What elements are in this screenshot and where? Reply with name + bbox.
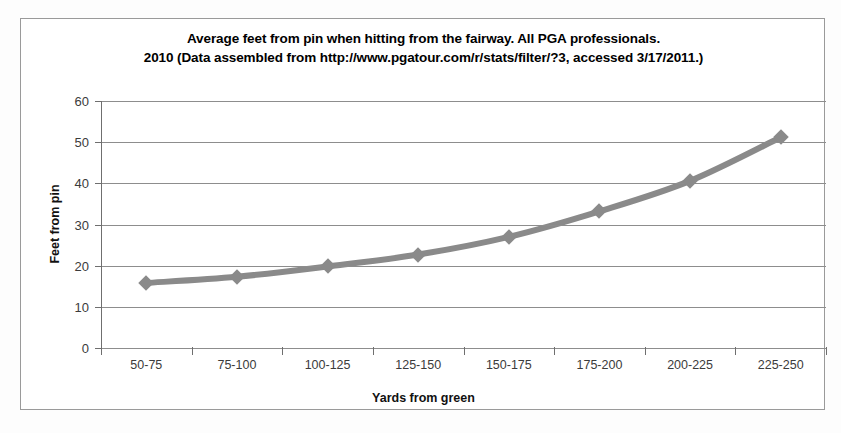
y-axis-tick-label: 40 bbox=[75, 176, 89, 191]
y-axis-title: Feet from pin bbox=[48, 184, 62, 263]
x-axis-tick bbox=[826, 347, 827, 355]
chart-figure: Average feet from pin when hitting from … bbox=[20, 18, 825, 410]
scanned-page-background: Average feet from pin when hitting from … bbox=[0, 0, 841, 433]
y-axis-tick bbox=[95, 307, 102, 308]
x-axis-tick bbox=[645, 347, 646, 355]
x-axis-tick-label: 175-200 bbox=[577, 358, 623, 372]
y-axis-tick bbox=[95, 225, 102, 226]
chart-title-line-2: 2010 (Data assembled from http://www.pga… bbox=[21, 48, 826, 67]
x-axis-tick-label: 50-75 bbox=[130, 358, 162, 372]
y-gridline bbox=[101, 142, 826, 143]
chart-title-line-1: Average feet from pin when hitting from … bbox=[21, 29, 826, 48]
y-axis-tick-label: 30 bbox=[75, 217, 89, 232]
y-gridline bbox=[101, 183, 826, 184]
y-axis-tick bbox=[95, 101, 102, 102]
x-axis-tick-label: 200-225 bbox=[667, 358, 713, 372]
y-gridline bbox=[101, 225, 826, 226]
x-axis-tick bbox=[464, 347, 465, 355]
y-axis-tick-label: 10 bbox=[75, 299, 89, 314]
y-gridline bbox=[101, 266, 826, 267]
x-axis-tick-label: 75-100 bbox=[217, 358, 256, 372]
y-axis-tick bbox=[95, 266, 102, 267]
x-axis-tick-label: 125-150 bbox=[395, 358, 441, 372]
chart-title: Average feet from pin when hitting from … bbox=[21, 29, 826, 67]
y-gridline bbox=[101, 101, 826, 102]
series-path bbox=[146, 137, 780, 283]
x-axis-tick bbox=[554, 347, 555, 355]
x-axis-tick-label: 150-175 bbox=[486, 358, 532, 372]
x-axis-title: Yards from green bbox=[21, 391, 826, 405]
y-axis-tick-label: 60 bbox=[75, 94, 89, 109]
x-axis-tick bbox=[735, 347, 736, 355]
x-axis-tick-label: 100-125 bbox=[305, 358, 351, 372]
y-axis-tick bbox=[95, 183, 102, 184]
y-axis-tick-label: 50 bbox=[75, 135, 89, 150]
y-axis-tick bbox=[95, 142, 102, 143]
y-axis-tick-label: 0 bbox=[82, 341, 89, 356]
y-axis-tick-label: 20 bbox=[75, 258, 89, 273]
x-axis-tick bbox=[101, 347, 102, 355]
x-axis-tick bbox=[192, 347, 193, 355]
x-axis-tick bbox=[282, 347, 283, 355]
plot-area: 010203040506050-7575-100100-125125-15015… bbox=[101, 101, 826, 348]
y-gridline bbox=[101, 307, 826, 308]
x-axis-tick bbox=[373, 347, 374, 355]
x-axis-tick-label: 225-250 bbox=[758, 358, 804, 372]
